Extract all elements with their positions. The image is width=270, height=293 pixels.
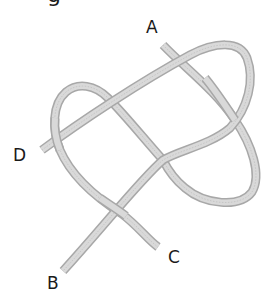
- label-a: A: [146, 19, 158, 36]
- label-b: B: [47, 275, 59, 292]
- label-c: C: [168, 249, 180, 266]
- rope-strand-a-to-center: [163, 45, 256, 203]
- rope-crossing-overlays: [55, 78, 235, 216]
- label-d: D: [13, 147, 26, 164]
